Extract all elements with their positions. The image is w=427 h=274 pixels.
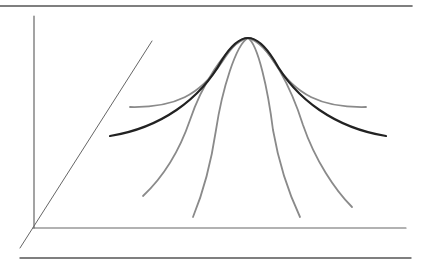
steep-curve-far-right (248, 38, 352, 207)
diagram-canvas (0, 0, 427, 274)
steep-curve-right (248, 38, 300, 217)
axes (20, 16, 406, 248)
main-bell-curve (110, 38, 386, 136)
bell-curve-diagram (0, 0, 427, 274)
main-curve-group (110, 38, 386, 136)
flat-bell-curve (130, 38, 366, 107)
frame-lines (0, 6, 412, 258)
curve-family (130, 38, 366, 217)
depth-axis (20, 41, 152, 248)
